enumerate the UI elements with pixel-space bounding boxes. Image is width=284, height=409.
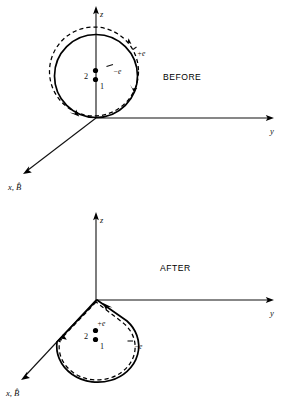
particle-dot-2-before	[93, 68, 98, 73]
axis-label-z-before: z	[100, 10, 103, 19]
orbit-label-minus-e-before: −e	[113, 67, 122, 76]
y-axis-after	[96, 297, 274, 303]
orbit-label-plus-e-before: +e	[137, 49, 146, 58]
particle-label-2-before: 2	[84, 72, 88, 81]
axis-label-y-before: y	[270, 126, 274, 136]
axis-label-y-after: y	[270, 308, 274, 318]
orbit-label-minus-e-after: −e	[134, 342, 143, 351]
panel-after	[21, 212, 274, 382]
orbit-label-plus-e-after: +e	[97, 319, 106, 328]
z-axis-before	[93, 6, 99, 118]
physics-figure: z y x, B̂ +e −e 2 1 BEFORE z y x, B̂ +e …	[0, 0, 284, 409]
particle-dot-1-after	[93, 337, 98, 342]
phase-label-before: BEFORE	[163, 72, 201, 82]
particle-label-1-after: 1	[100, 342, 104, 351]
axis-label-x-after: x, B̂	[6, 388, 19, 398]
axis-label-x-before: x, B̂	[8, 182, 21, 192]
leader-plus-e-before	[133, 47, 137, 50]
axis-label-z-after: z	[100, 216, 103, 225]
particle-label-1-before: 1	[100, 82, 104, 91]
particle-label-2-after: 2	[84, 332, 88, 341]
particle-dot-1-before	[93, 77, 98, 82]
panel-before	[23, 6, 274, 174]
phase-label-after: AFTER	[160, 263, 191, 273]
z-axis-after	[93, 212, 99, 300]
y-axis-before	[96, 115, 274, 121]
x-axis-before	[23, 118, 96, 174]
